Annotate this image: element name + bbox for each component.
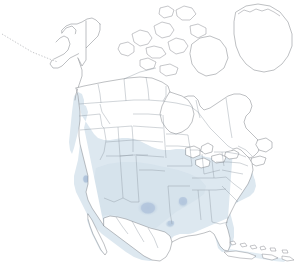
hotspot-missouri-arkansas-core: [179, 197, 187, 205]
north-america-map: [0, 0, 303, 266]
hotspot-texas-panhandle-core: [141, 203, 155, 214]
range-map-canvas: [0, 0, 303, 266]
hotspot-gulf-coast-core: [168, 221, 174, 226]
